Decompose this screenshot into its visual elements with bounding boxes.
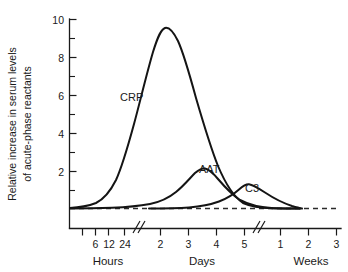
y-tick-labels: 10 8 6 4 2 bbox=[52, 14, 64, 178]
chart-canvas: 6 12 24 2 3 4 5 1 2 3 Hours Days Weeks 1… bbox=[0, 0, 348, 272]
x-tick-days-2: 2 bbox=[158, 238, 164, 250]
x-tick-hours-6: 6 bbox=[93, 238, 99, 250]
x-group-label-hours: Hours bbox=[93, 255, 124, 267]
y-tick-8: 8 bbox=[58, 52, 64, 64]
x-tick-days-3: 3 bbox=[186, 238, 192, 250]
series-label-aat: AAT bbox=[199, 163, 220, 175]
y-axis-minor-ticks bbox=[70, 39, 76, 191]
x-group-label-weeks: Weeks bbox=[294, 255, 329, 267]
x-tick-weeks-2: 2 bbox=[306, 238, 312, 250]
y-tick-10: 10 bbox=[52, 14, 64, 26]
x-tick-hours-24: 24 bbox=[119, 238, 131, 250]
curve-crp bbox=[70, 28, 300, 209]
y-axis-title-line2: of acute-phase reactants bbox=[21, 66, 33, 182]
curve-aat bbox=[70, 168, 300, 208]
x-tick-days-5: 5 bbox=[242, 238, 248, 250]
x-tick-hours-12: 12 bbox=[103, 238, 115, 250]
x-tick-weeks-3: 3 bbox=[334, 238, 340, 250]
y-tick-6: 6 bbox=[58, 90, 64, 102]
series-label-crp: CRP bbox=[120, 91, 143, 103]
x-axis-ticks bbox=[83, 229, 337, 236]
series-label-c3: C3 bbox=[245, 182, 259, 194]
y-axis-title-line1: Relative increase in serum levels bbox=[6, 47, 18, 200]
y-tick-4: 4 bbox=[58, 128, 64, 140]
x-axis-group-labels: Hours Days Weeks bbox=[93, 255, 329, 267]
y-axis-major-ticks bbox=[70, 20, 77, 172]
x-tick-labels: 6 12 24 2 3 4 5 1 2 3 bbox=[93, 238, 340, 250]
x-group-label-days: Days bbox=[189, 255, 215, 267]
y-axis-title: Relative increase in serum levels of acu… bbox=[6, 47, 33, 200]
x-tick-weeks-1: 1 bbox=[278, 238, 284, 250]
axis-break-marks bbox=[133, 221, 265, 233]
x-tick-days-4: 4 bbox=[214, 238, 220, 250]
y-tick-2: 2 bbox=[58, 166, 64, 178]
acute-phase-reactants-chart: 6 12 24 2 3 4 5 1 2 3 Hours Days Weeks 1… bbox=[0, 0, 348, 272]
